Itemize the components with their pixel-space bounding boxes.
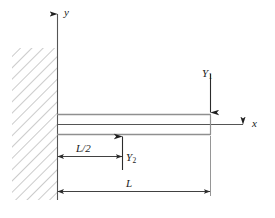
force-Y2-label: Y2 bbox=[126, 152, 136, 163]
y-axis-label: y bbox=[64, 7, 69, 18]
force-Y1-subscript: 1 bbox=[208, 72, 212, 81]
cantilever-beam-diagram: y x Y1 Y2 L/2 L bbox=[0, 0, 275, 218]
wall-hatch-fill bbox=[12, 48, 57, 200]
force-Y2-subscript: 2 bbox=[132, 156, 136, 165]
dimension-half-length-label: L/2 bbox=[76, 143, 91, 154]
force-Y1-label: Y1 bbox=[202, 68, 212, 79]
dimension-full-length-label: L bbox=[126, 178, 132, 189]
fixed-wall-support bbox=[12, 48, 57, 200]
x-axis-label: x bbox=[252, 118, 257, 129]
diagram-canvas bbox=[0, 0, 275, 218]
